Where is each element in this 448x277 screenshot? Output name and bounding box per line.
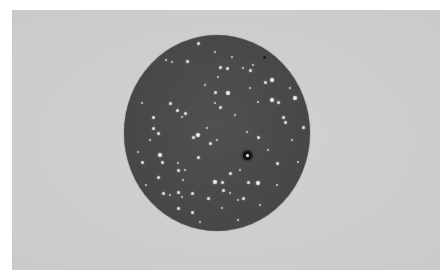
colony-dot (149, 139, 151, 141)
colony-dot (157, 176, 160, 179)
colony-dot (217, 76, 219, 78)
colony-dot (184, 169, 186, 171)
colony-dot (177, 162, 179, 164)
colony-dot (214, 51, 216, 53)
colony-dot (229, 172, 232, 175)
colony-dot (221, 207, 223, 209)
colony-dot (226, 91, 230, 95)
colony-dot (297, 161, 299, 163)
colony-dot (209, 142, 212, 145)
colony-dot (158, 153, 162, 157)
colony-dot (282, 116, 285, 119)
colony-dot (177, 169, 180, 172)
colony-dot (171, 61, 173, 63)
colony-dot (257, 101, 259, 103)
colony-dot (145, 184, 147, 186)
colony-dot (141, 102, 143, 104)
colony-dot (204, 84, 206, 86)
colony-dot (177, 191, 180, 194)
colony-dot (192, 136, 195, 139)
colony-dot (291, 139, 293, 141)
colony-dot (184, 112, 187, 115)
colony-dot (264, 81, 267, 84)
colony-dot (206, 127, 208, 129)
colony-dot (152, 127, 155, 130)
colony-dot (162, 192, 165, 195)
colony-dot (219, 106, 222, 109)
dark-speck (263, 56, 266, 59)
colony-dot (216, 139, 218, 141)
colony-dot (169, 102, 172, 105)
colony-layer (0, 0, 448, 277)
colony-dot (182, 179, 184, 181)
colony-dot (242, 67, 244, 69)
colony-dot (229, 192, 231, 194)
colony-dot (213, 180, 217, 184)
colony-dot (181, 116, 183, 118)
colony-dot (270, 78, 274, 82)
colony-dot (302, 126, 305, 129)
colony-dot (141, 161, 144, 164)
colony-dot (199, 221, 201, 223)
colony-dot (165, 59, 167, 61)
colony-dot (214, 102, 216, 104)
colony-dot (157, 132, 160, 135)
colony-dot (277, 101, 280, 104)
colony-dot (242, 197, 245, 200)
colony-dot (196, 133, 200, 137)
colony-dot (177, 207, 180, 210)
colony-dot (219, 66, 222, 69)
colony-dot (169, 194, 171, 196)
colony-dot (191, 211, 194, 214)
colony-dot (239, 169, 241, 171)
colony-dot (246, 131, 248, 133)
colony-dot (276, 162, 279, 165)
dark-spot (243, 151, 252, 160)
colony-dot (284, 121, 287, 124)
colony-dot (207, 197, 210, 200)
colony-dot (289, 87, 291, 89)
colony-dot (152, 116, 155, 119)
colony-dot (259, 204, 261, 206)
colony-dot (247, 181, 250, 184)
colony-dot (214, 91, 217, 94)
colony-dot (257, 136, 260, 139)
colony-dot (293, 96, 297, 100)
colony-dot (197, 156, 200, 159)
colony-dot (249, 87, 251, 89)
colony-dot (267, 149, 269, 151)
colony-dot (161, 161, 164, 164)
colony-dot (226, 67, 229, 70)
colony-dot (222, 189, 225, 192)
colony-dot (137, 151, 139, 153)
colony-dot (197, 42, 200, 45)
colony-dot (181, 196, 183, 198)
colony-dot (237, 199, 239, 201)
colony-dot (237, 219, 239, 221)
colony-dot (256, 181, 260, 185)
colony-dot (249, 69, 252, 72)
colony-dot (234, 114, 236, 116)
colony-dot (176, 109, 179, 112)
colony-dot (270, 98, 274, 102)
colony-dot (221, 181, 224, 184)
colony-dot (252, 64, 254, 66)
colony-dot (186, 60, 189, 63)
colony-dot (231, 56, 233, 58)
colony-dot (191, 192, 194, 195)
colony-dot (276, 184, 278, 186)
